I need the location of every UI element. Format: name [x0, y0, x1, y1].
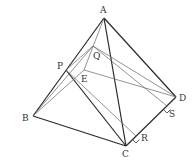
point-label-A: A [99, 5, 107, 15]
point-label-E: E [81, 74, 88, 84]
edge-CD [126, 97, 176, 146]
edge-QD [93, 46, 176, 97]
right-angle-mark-R [132, 139, 139, 143]
point-label-Q: Q [93, 51, 100, 61]
edge-PR [66, 70, 136, 136]
edge-BC [33, 116, 126, 146]
edge-BE [33, 70, 84, 116]
point-label-P: P [57, 61, 63, 71]
point-label-S: S [169, 109, 175, 119]
edge-ED [84, 70, 176, 97]
point-label-R: R [141, 133, 148, 143]
tetrahedron-diagram: ABCDPQERS [0, 0, 194, 162]
edge-AC [104, 18, 126, 146]
edge-AB [33, 18, 104, 116]
edge-PC [66, 70, 126, 146]
point-label-B: B [22, 113, 29, 123]
edge-AE [84, 18, 104, 70]
right-angle-marks [132, 109, 170, 143]
point-label-C: C [122, 149, 129, 159]
point-label-D: D [179, 93, 186, 103]
edges [33, 18, 176, 146]
edge-AD [104, 18, 176, 97]
